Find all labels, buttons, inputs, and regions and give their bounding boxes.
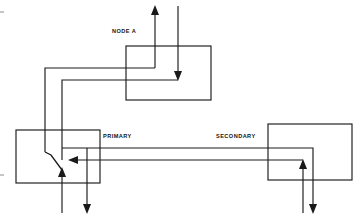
block-node-a: NODE A [112,28,211,100]
block-secondary: SECONDARY [216,124,352,180]
node-a-box [126,46,211,100]
arrowhead-primary-up [58,167,66,177]
switch-contact-arm [45,152,62,170]
node-a-label: NODE A [112,28,136,34]
secondary-label: SECONDARY [216,133,256,139]
primary-label: PRIMARY [103,133,132,139]
arrowhead-secondary-down [309,204,317,214]
arrowhead-primary-down [83,204,91,214]
schematic-canvas: NODE A PRIMARY SECONDARY [0,0,361,224]
arrowhead-primary-left [68,156,78,164]
block-primary: PRIMARY [16,130,132,183]
schematic-diagram: NODE A PRIMARY SECONDARY [0,0,361,224]
secondary-box [268,124,352,180]
arrowhead-node-a-top-up [151,5,159,15]
